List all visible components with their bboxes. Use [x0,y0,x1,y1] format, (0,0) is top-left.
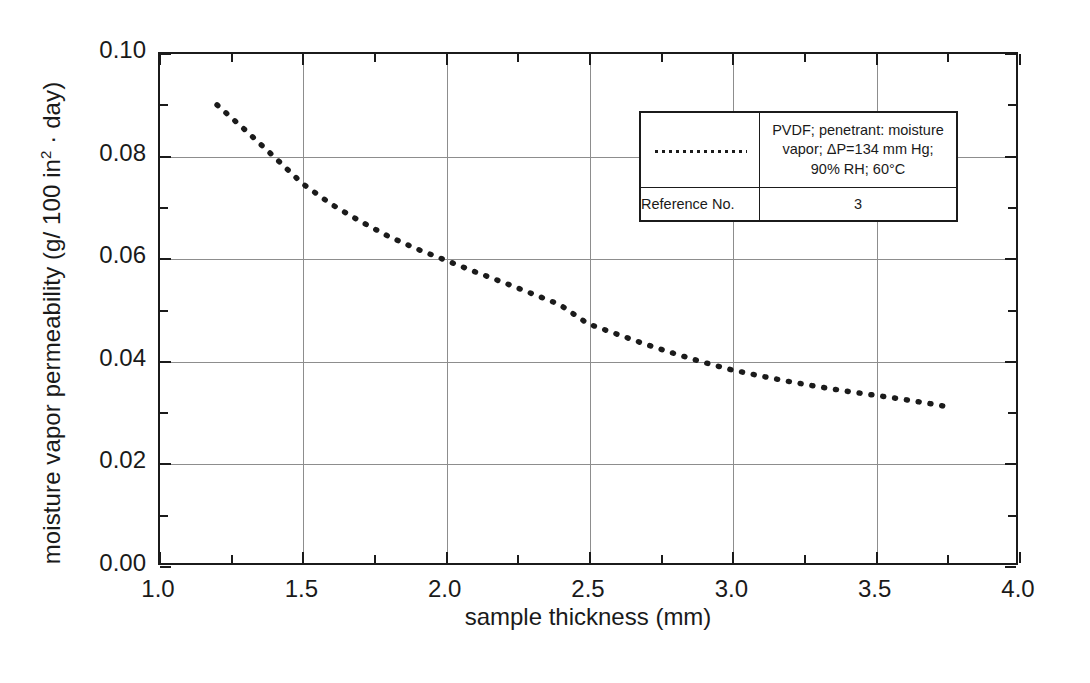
y-tick-major [160,566,171,568]
x-tick-label: 4.0 [978,575,1058,603]
y-tick-label: 0.02 [56,446,146,474]
y-tick-major-right [1005,566,1016,568]
legend-description-line-3: 90% RH; 60°C [760,160,956,179]
dotted-line-swatch-icon [653,150,747,153]
plot-area: PVDF; penetrant: moisture vapor; ΔP=134 … [158,52,1018,565]
y-tick-label: 0.00 [56,549,146,577]
x-tick-label: 2.5 [548,575,628,603]
y-tick-label: 0.06 [56,241,146,269]
y-tick-label: 0.04 [56,344,146,372]
legend-reference-value-cell: 3 [760,188,957,221]
y-tick-label: 0.10 [56,36,146,64]
legend-description-line-2: vapor; ΔP=134 mm Hg; [760,140,956,159]
legend-table: PVDF; penetrant: moisture vapor; ΔP=134 … [641,113,956,220]
legend-row-reference: Reference No. 3 [641,188,956,221]
x-tick-label: 2.0 [405,575,485,603]
x-tick-label: 1.5 [261,575,341,603]
y-axis-title: moisture vapor permeability (g/ 100 in2 … [38,43,66,603]
legend-reference-label-cell: Reference No. [641,188,760,221]
legend-description-line-1: PVDF; penetrant: moisture [760,121,956,140]
x-tick-label: 3.5 [835,575,915,603]
legend-swatch-cell [641,113,760,188]
y-tick-label: 0.08 [56,139,146,167]
legend-box: PVDF; penetrant: moisture vapor; ΔP=134 … [639,111,958,222]
y-axis-title-exponent: 2 [37,150,54,158]
legend-description-cell: PVDF; penetrant: moisture vapor; ΔP=134 … [760,113,957,188]
x-tick-major-top [1019,54,1021,65]
x-tick-label: 3.0 [691,575,771,603]
x-tick-major [1019,552,1021,563]
legend-row-series: PVDF; penetrant: moisture vapor; ΔP=134 … [641,113,956,188]
figure-container: moisture vapor permeability (g/ 100 in2 … [0,0,1090,683]
x-tick-label: 1.0 [118,575,198,603]
x-axis-title: sample thickness (mm) [158,603,1018,631]
